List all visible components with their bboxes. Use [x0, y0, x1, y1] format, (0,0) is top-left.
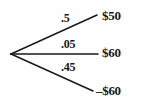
branch-payoff-middle: $60: [102, 46, 121, 59]
branch-payoff-top: $50: [102, 9, 121, 22]
branch-probability-bottom: .45: [61, 61, 75, 73]
decision-node: [10, 53, 12, 55]
branch-probability-middle: .05: [61, 38, 75, 50]
branch-probability-top: .5: [61, 12, 70, 24]
probability-tree-diagram: .5 .05 .45 $50 $60 –$60: [0, 0, 141, 106]
branch-line-bottom: [11, 54, 93, 91]
branch-payoff-bottom: –$60: [96, 84, 121, 97]
branch-line-top: [11, 15, 97, 54]
